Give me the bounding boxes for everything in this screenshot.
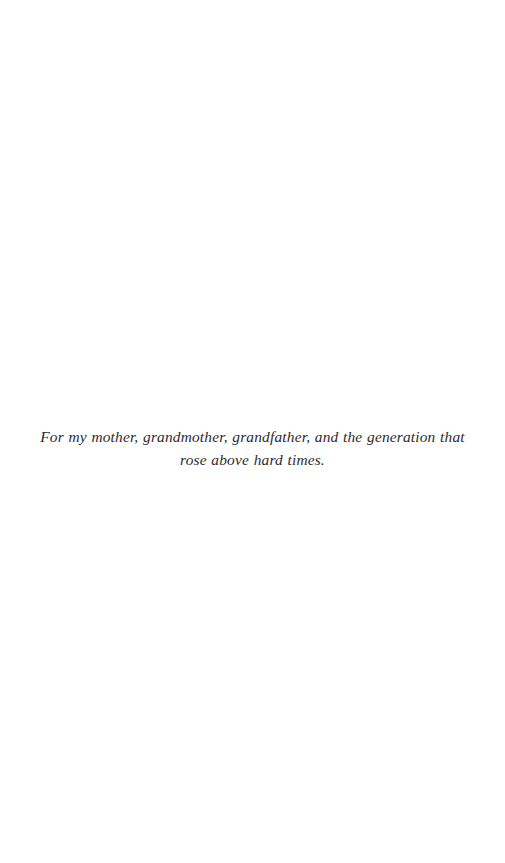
dedication-block: For my mother, grandmother, grandfather,…: [35, 425, 470, 471]
book-page: For my mother, grandmother, grandfather,…: [0, 0, 505, 863]
dedication-text: For my mother, grandmother, grandfather,…: [35, 425, 470, 471]
